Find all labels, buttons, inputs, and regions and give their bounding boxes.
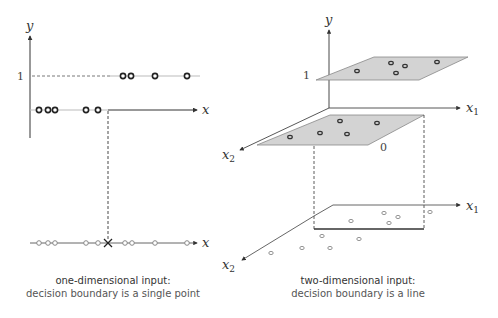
- floor-projected-points: [269, 210, 432, 254]
- x-axis-upper-label: x: [202, 102, 210, 117]
- x-axis-lower-label: x: [202, 235, 210, 250]
- one-dimensional-plot: y 1 x x: [17, 18, 210, 250]
- left-caption-subtitle: decision boundary is a single point: [13, 287, 213, 300]
- right-caption-subtitle: decision boundary is a line: [258, 287, 458, 300]
- two-dimensional-plot: y 1 x1 x2 0 x1: [222, 12, 479, 274]
- y-tick-1-label-3d: 1: [303, 69, 310, 82]
- y-axis-3d-label: y: [324, 12, 333, 27]
- right-caption-title: two-dimensional input:: [258, 274, 458, 287]
- left-caption: one-dimensional input: decision boundary…: [13, 274, 213, 300]
- left-caption-title: one-dimensional input:: [13, 274, 213, 287]
- y-tick-0-label-3d: 0: [380, 141, 387, 154]
- decision-boundary-diagram: y 1 x x: [0, 0, 498, 318]
- y-axis-label: y: [25, 18, 34, 33]
- x1-axis-lower: [314, 205, 460, 216]
- x2-axis-lower-label: x2: [222, 257, 235, 274]
- right-caption: two-dimensional input: decision boundary…: [258, 274, 458, 300]
- y-tick-1-label: 1: [17, 70, 24, 83]
- x2-axis-lower: [242, 216, 314, 260]
- x1-axis-upper-label: x1: [466, 100, 479, 117]
- x1-axis-lower-label: x1: [466, 198, 479, 215]
- plane-y1: [316, 57, 468, 80]
- x2-axis-upper-label: x2: [222, 147, 235, 164]
